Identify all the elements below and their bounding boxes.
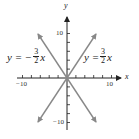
y-min-label: −10 bbox=[53, 118, 64, 126]
fraction: 3 2 bbox=[100, 48, 106, 65]
x-axis-label: x bbox=[125, 72, 129, 81]
coordinate-plane bbox=[0, 0, 139, 139]
equation-right: y = 3 2 x bbox=[84, 48, 112, 65]
equation-left: y = − 3 2 x bbox=[7, 48, 45, 65]
y-axis-label: y bbox=[64, 1, 68, 10]
x-min-label: −10 bbox=[16, 80, 27, 88]
x-max-label: 10 bbox=[106, 80, 113, 88]
fraction: 3 2 bbox=[33, 48, 39, 65]
y-max-label: 10 bbox=[56, 29, 63, 37]
